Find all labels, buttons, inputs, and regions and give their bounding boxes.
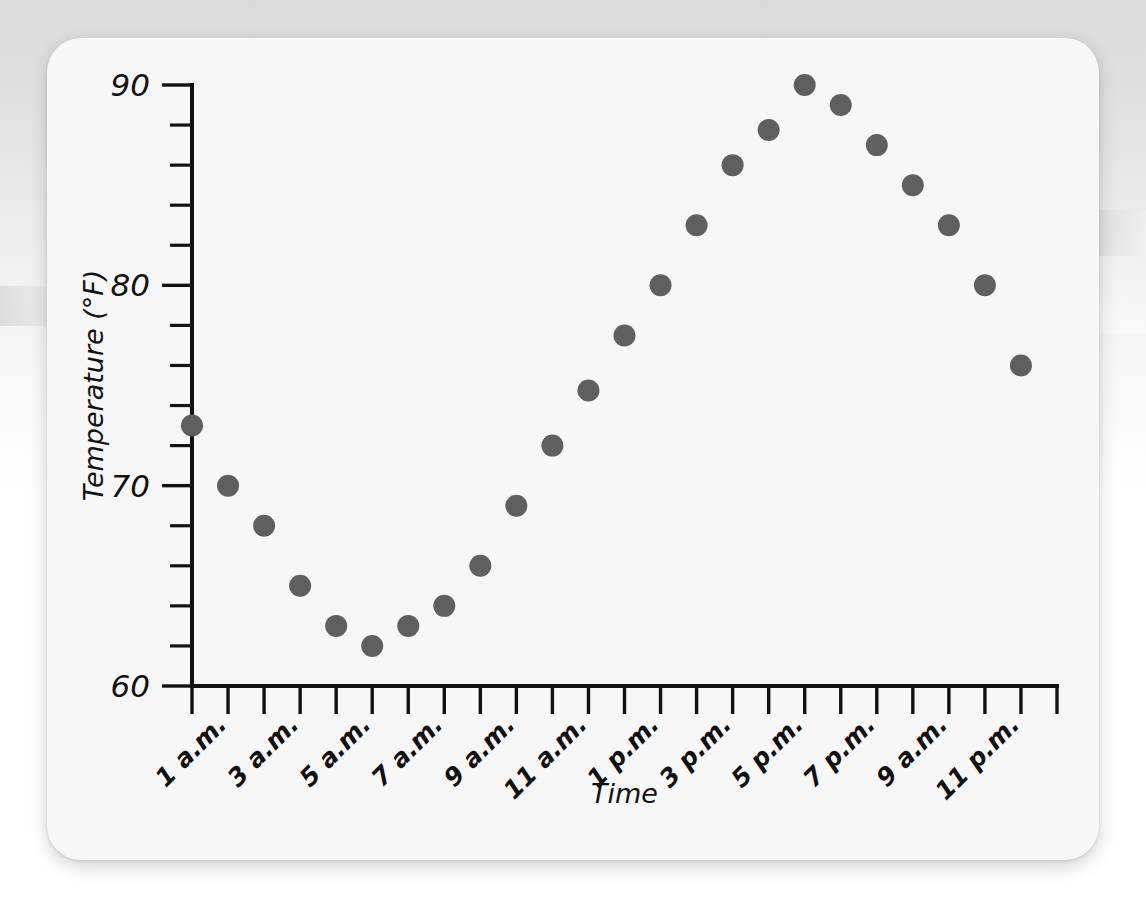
x-tick-label: 7 a.m.: [366, 710, 449, 793]
data-point[interactable]: [866, 134, 888, 156]
y-axis-title: Temperature (°F): [78, 270, 109, 502]
data-point[interactable]: [181, 415, 203, 437]
data-point[interactable]: [217, 475, 239, 497]
data-point[interactable]: [794, 74, 816, 96]
x-tick-label: 3 a.m.: [222, 710, 305, 793]
data-point[interactable]: [289, 575, 311, 597]
data-point[interactable]: [1010, 354, 1032, 376]
data-point[interactable]: [830, 94, 852, 116]
data-point[interactable]: [253, 515, 275, 537]
x-tick-label: 7 p.m.: [798, 710, 881, 793]
x-tick-label: 1 a.m.: [150, 710, 233, 793]
y-tick-label: 60: [111, 668, 150, 704]
scatter-plot: 60708090 1 a.m.3 a.m.5 a.m.7 a.m.9 a.m.1…: [47, 38, 1099, 860]
data-point[interactable]: [577, 380, 599, 402]
data-point[interactable]: [397, 615, 419, 637]
data-point[interactable]: [686, 214, 708, 236]
y-tick-label: 80: [111, 267, 150, 303]
data-point[interactable]: [902, 174, 924, 196]
chart-svg: 60708090 1 a.m.3 a.m.5 a.m.7 a.m.9 a.m.1…: [47, 38, 1099, 860]
clipped-header-text: [360, 0, 780, 6]
x-tick-label: 3 p.m.: [653, 710, 736, 793]
y-tick-label: 70: [111, 468, 150, 504]
data-point[interactable]: [650, 274, 672, 296]
x-tick-label: 5 p.m.: [725, 710, 808, 793]
decorative-ribbon-left: [0, 286, 52, 326]
y-tick-label: 90: [111, 67, 150, 103]
data-point[interactable]: [758, 119, 780, 141]
data-points[interactable]: [181, 74, 1032, 657]
x-tick-label: 5 a.m.: [294, 710, 377, 793]
data-point[interactable]: [722, 154, 744, 176]
data-point[interactable]: [469, 555, 491, 577]
y-axis: 60708090: [111, 67, 192, 704]
page-root: 60708090 1 a.m.3 a.m.5 a.m.7 a.m.9 a.m.1…: [0, 0, 1146, 900]
data-point[interactable]: [325, 615, 347, 637]
x-axis-title: Time: [591, 778, 658, 809]
data-point[interactable]: [505, 495, 527, 517]
data-point[interactable]: [433, 595, 455, 617]
data-point[interactable]: [361, 635, 383, 657]
data-point[interactable]: [938, 214, 960, 236]
data-point[interactable]: [974, 274, 996, 296]
data-point[interactable]: [541, 435, 563, 457]
chart-card: 60708090 1 a.m.3 a.m.5 a.m.7 a.m.9 a.m.1…: [47, 38, 1099, 860]
data-point[interactable]: [614, 324, 636, 346]
